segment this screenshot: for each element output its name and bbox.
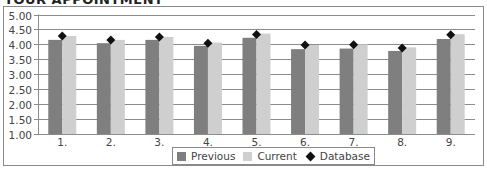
bar-previous — [243, 38, 257, 134]
y-tick-label: 2.00 — [9, 99, 32, 111]
bar-previous — [194, 46, 208, 134]
bar-previous — [340, 49, 354, 134]
y-tick-label: 3.50 — [9, 54, 32, 66]
bar-previous — [388, 51, 402, 134]
y-tick-label: 4.00 — [9, 39, 32, 51]
bar-current — [451, 34, 465, 134]
legend-item-current: Current — [243, 150, 296, 162]
legend-swatch-current — [243, 152, 252, 161]
bar-current — [62, 36, 76, 134]
y-tick-label: 3.00 — [9, 69, 32, 81]
y-tick-label: 1.00 — [9, 129, 32, 141]
legend-label-current: Current — [257, 150, 296, 162]
bar-current — [305, 45, 319, 134]
x-axis: 1.2.3.4.5.6.7.8.9. — [38, 135, 475, 149]
y-tick-label: 1.50 — [9, 114, 32, 126]
bar-chart: 5.004.504.003.503.002.502.001.501.00 1.2… — [0, 0, 487, 169]
y-tick-label: 2.50 — [9, 84, 32, 96]
bar-current — [354, 44, 368, 134]
bar-previous — [97, 43, 111, 134]
x-tick-label: 1. — [57, 136, 67, 148]
x-tick-label: 9. — [446, 136, 456, 148]
legend-item-database: Database — [305, 150, 370, 162]
legend-swatch-previous — [177, 152, 186, 161]
x-tick-label: 8. — [397, 136, 407, 148]
bar-current — [402, 47, 416, 134]
y-tick-label: 5.00 — [9, 10, 32, 22]
legend-label-previous: Previous — [191, 150, 235, 162]
bar-current — [257, 34, 271, 134]
bar-current — [159, 37, 173, 134]
bar-previous — [48, 40, 62, 134]
bar-previous — [291, 49, 305, 134]
y-tick-label: 4.50 — [9, 24, 32, 36]
bar-current — [111, 40, 125, 134]
x-tick-label: 3. — [154, 136, 164, 148]
bar-previous — [437, 39, 451, 134]
legend-item-previous: Previous — [177, 150, 235, 162]
diamond-icon — [305, 151, 315, 161]
x-tick-label: 2. — [106, 136, 116, 148]
legend-label-database: Database — [320, 150, 370, 162]
legend: Previous Current Database — [172, 147, 375, 165]
bar-previous — [145, 40, 159, 134]
bar-current — [208, 43, 222, 134]
